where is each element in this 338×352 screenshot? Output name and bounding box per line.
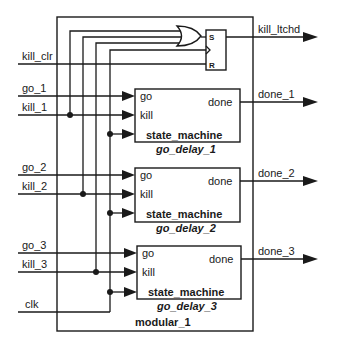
sm1-type-label: state_machine (146, 129, 222, 141)
input-kill-3-label: kill_3 (22, 258, 47, 270)
input-clk-label: clk (25, 298, 39, 310)
sm2-instance-name: go_delay_2 (155, 222, 216, 234)
sm3-type-label: state_machine (148, 286, 224, 298)
ff-set-label: S (209, 33, 215, 42)
sm2-port-go: go (140, 169, 152, 181)
junction-dot (107, 210, 113, 216)
output-done-2-label: done_2 (258, 167, 295, 179)
done-1-arrow-icon (303, 97, 318, 107)
sm1-instance-name: go_delay_1 (155, 143, 216, 155)
output-done-3-label: done_3 (258, 245, 295, 257)
sm1-port-done: done (208, 96, 232, 108)
output-done-1-label: done_1 (258, 88, 295, 100)
input-go-2-label: go_2 (22, 161, 46, 173)
block-diagram: modular_1 S R kill_clr kill_ltchd go kil… (0, 0, 338, 352)
done-2-arrow-icon (303, 176, 318, 186)
sm3-instance-name: go_delay_3 (156, 300, 217, 312)
sm1-port-go: go (140, 90, 152, 102)
output-kill-ltchd-label: kill_ltchd (258, 23, 300, 35)
input-go-3-label: go_3 (22, 239, 46, 251)
input-kill-clr-label: kill_clr (22, 50, 53, 62)
sm3-port-done: done (209, 253, 233, 265)
ff-reset-label: R (209, 61, 215, 70)
module-label: modular_1 (135, 316, 191, 328)
done-3-arrow-icon (303, 254, 318, 264)
kill-ltchd-arrow-icon (303, 32, 318, 42)
input-kill-2-label: kill_2 (22, 180, 47, 192)
sm3-port-kill: kill (142, 266, 155, 278)
junction-dot (107, 289, 113, 295)
junction-dot (107, 131, 113, 137)
sm3-port-go: go (142, 247, 154, 259)
sm2-port-kill: kill (140, 188, 153, 200)
sm1-port-kill: kill (140, 109, 153, 121)
sm2-type-label: state_machine (146, 208, 222, 220)
input-go-1-label: go_1 (22, 82, 46, 94)
input-kill-1-label: kill_1 (22, 101, 47, 113)
sm2-port-done: done (208, 175, 232, 187)
junction-dot (80, 191, 86, 197)
junction-dot (67, 112, 73, 118)
junction-dot (93, 269, 99, 275)
